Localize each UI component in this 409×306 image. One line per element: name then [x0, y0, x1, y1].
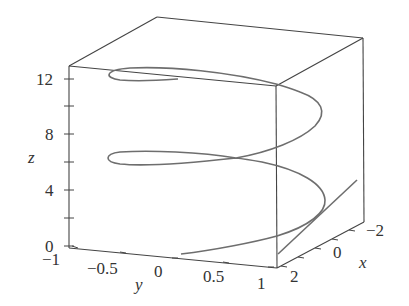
x-tick-label-0: 0	[333, 243, 342, 262]
z-tick-label-12: 12	[36, 70, 53, 89]
x-axis-ticks	[281, 230, 355, 267]
z-tick-label-8: 8	[45, 125, 54, 144]
y-tick-label-m05: −0.5	[87, 259, 118, 278]
y-tick-label-0: 0	[154, 262, 163, 281]
y-axis-label: y	[133, 275, 143, 294]
helix-curve	[108, 68, 325, 254]
y-tick-label-05: 0.5	[203, 267, 224, 286]
z-axis-label: z	[27, 148, 35, 167]
bounding-box	[69, 17, 364, 268]
x-tick-label-m2: −2	[366, 221, 384, 240]
y-tick-label-m1: −1	[42, 250, 60, 269]
x-tick-label-2: 2	[290, 267, 299, 286]
helix-3d-plot: 12 8 4 0 z −1 −0.5 0 0.5 1 y 2 0 −2 x	[0, 0, 409, 306]
y-tick-label-1: 1	[257, 274, 266, 293]
x-axis-label: x	[358, 253, 367, 272]
projection-line	[278, 180, 357, 254]
z-tick-label-4: 4	[45, 181, 54, 200]
